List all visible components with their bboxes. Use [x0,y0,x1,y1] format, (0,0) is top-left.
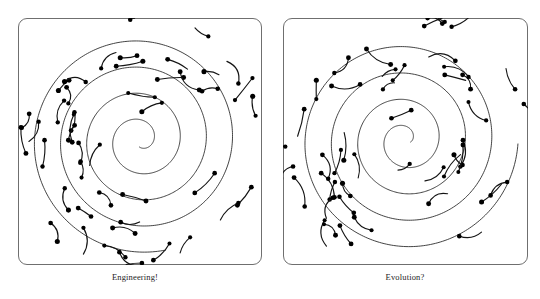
hook-layer-evolution [283,18,528,246]
figure-root: Engineering! Evolution? [0,0,540,299]
panel-evolution: Evolution? [270,0,540,299]
panel-plot-evolution [283,18,528,265]
spiral-diagram-engineering [18,18,262,265]
spiral-backbone-evolution [305,47,518,247]
hook-layer-engineering [19,18,258,265]
panel-plot-engineering [18,18,262,265]
caption-engineering: Engineering! [0,272,270,282]
spiral-diagram-evolution [283,18,528,265]
caption-evolution: Evolution? [270,272,540,282]
panel-engineering: Engineering! [0,0,270,299]
